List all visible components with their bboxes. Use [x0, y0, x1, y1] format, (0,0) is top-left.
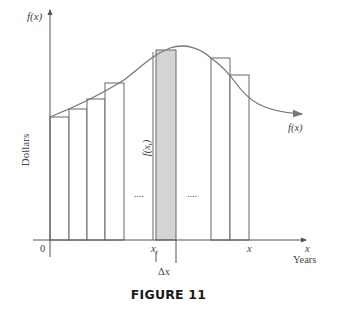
- rectangle-3: [87, 99, 105, 240]
- tick-xt-label: xt: [150, 243, 159, 256]
- right-rectangles: [211, 58, 249, 240]
- rectangle-n-1: [211, 58, 230, 240]
- rectangle-n: [230, 75, 249, 240]
- delta-x-label: Δx: [158, 266, 171, 277]
- rectangle-1: [50, 117, 69, 240]
- tick-x-label: x: [246, 243, 252, 254]
- origin-label: 0: [40, 243, 45, 254]
- x-axis-title: Years: [293, 254, 316, 265]
- rectangle-4: [105, 83, 124, 240]
- curve-label: f(x): [288, 122, 303, 134]
- riemann-sum-figure: f(x) Dollars 0 f(x) f(xt) .... .... xt x…: [0, 0, 337, 314]
- rectangle-2: [69, 109, 87, 240]
- figure-caption: FIGURE 11: [0, 287, 337, 302]
- y-axis-label: f(x): [27, 10, 43, 23]
- shaded-rectangle: [156, 50, 176, 240]
- ellipsis-right: ....: [187, 188, 197, 199]
- ellipsis-left: ....: [134, 188, 144, 199]
- x-axis-label: x: [304, 243, 310, 254]
- left-rectangles: [50, 83, 124, 240]
- y-axis-title: Dollars: [19, 134, 31, 166]
- shaded-height-label: f(xt): [141, 139, 154, 156]
